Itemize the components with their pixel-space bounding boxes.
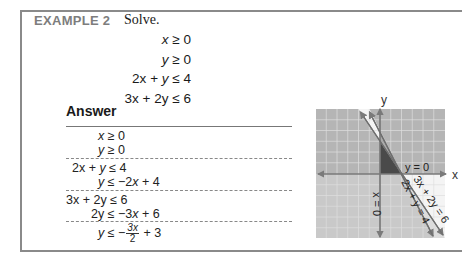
answer-rule — [66, 126, 292, 127]
answer-step-1: x ≥ 0 — [98, 129, 125, 143]
example-instruction: Solve. — [124, 12, 159, 28]
x-axis-label: x — [452, 168, 458, 182]
label-y-eq-0: y = 0 — [405, 161, 429, 173]
label-x-eq-0: x = 0 — [371, 192, 383, 216]
answer-step-5: 3x + 2y ≤ 6 — [66, 193, 127, 207]
answer-divider-2 — [66, 190, 292, 191]
answer-step-4: y ≤ −2x + 4 — [98, 175, 160, 189]
y-axis-label: y — [381, 93, 387, 107]
problem-ineq-1: x ≥ 0 — [125, 30, 191, 50]
answer-title: Answer — [66, 103, 117, 119]
fraction: 3x2 — [126, 223, 139, 244]
problem-system: x ≥ 0 y ≥ 0 2x + y ≤ 4 3x + 2y ≤ 6 — [125, 30, 191, 108]
problem-ineq-4: 3x + 2y ≤ 6 — [125, 89, 191, 109]
problem-ineq-2: y ≥ 0 — [125, 50, 191, 70]
answer-divider-1 — [66, 158, 292, 159]
problem-ineq-3: 2x + y ≤ 4 — [125, 69, 191, 89]
answer-step-6: 2y ≤ −3x + 6 — [91, 207, 160, 221]
answer-divider-3 — [66, 221, 292, 222]
solution-graph: y x y = 0 x = 0 2x + y = 4 3x + 2y = 6 — [300, 90, 476, 250]
example-label: EXAMPLE 2 — [34, 13, 110, 28]
answer-step-2: y ≥ 0 — [98, 143, 125, 157]
answer-step-7: y ≤ −3x2 + 3 — [98, 223, 161, 244]
answer-step-3: 2x + y ≤ 4 — [72, 161, 126, 175]
